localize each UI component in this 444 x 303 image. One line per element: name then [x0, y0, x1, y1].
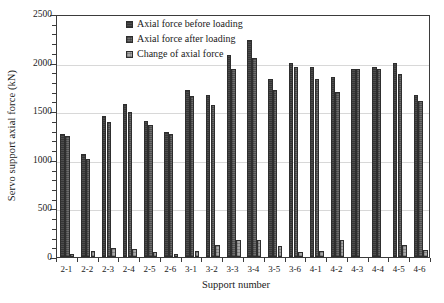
legend-swatch-icon	[126, 51, 133, 58]
bar	[107, 122, 111, 257]
x-tick	[264, 258, 265, 262]
x-tick	[118, 258, 119, 262]
bar	[128, 112, 132, 257]
bar	[169, 134, 173, 257]
plot-area	[56, 15, 430, 258]
x-axis-title: Support number	[0, 279, 444, 290]
x-tick	[201, 258, 202, 262]
legend-item-label: Axial force before loading	[137, 18, 243, 30]
y-tick-label: 1000	[12, 156, 52, 166]
bar	[195, 251, 199, 257]
bar	[174, 254, 178, 257]
x-tick	[160, 258, 161, 262]
bar	[132, 249, 136, 257]
bar	[356, 69, 360, 257]
x-axis-title-text: Support number	[202, 279, 270, 290]
x-tick	[77, 258, 78, 262]
bar	[377, 69, 381, 257]
bar	[278, 246, 282, 257]
bar	[231, 69, 235, 257]
legend-item-label: Axial force after loading	[137, 33, 236, 45]
bar	[319, 251, 323, 257]
bar	[335, 92, 339, 257]
bar	[340, 240, 344, 257]
x-tick	[98, 258, 99, 262]
y-tick-label: 2500	[12, 10, 52, 20]
bar	[402, 245, 406, 257]
legend-item: Axial force before loading	[126, 18, 243, 30]
x-tick	[139, 258, 140, 262]
x-tick	[285, 258, 286, 262]
bar	[257, 240, 261, 257]
y-tick-label: 1500	[12, 107, 52, 117]
bar	[190, 96, 194, 257]
x-tick-label: 4-6	[405, 264, 435, 274]
legend-item: Change of axial force	[126, 48, 243, 60]
bar	[111, 248, 115, 257]
bar	[252, 58, 256, 257]
y-axis-title: Servo support axial force (kN)	[0, 0, 24, 270]
bar	[418, 101, 422, 257]
bar	[65, 136, 69, 257]
y-axis-title-text: Servo support axial force (kN)	[7, 69, 18, 200]
legend-item: Axial force after loading	[126, 33, 243, 45]
bar	[153, 252, 157, 257]
bar	[70, 254, 74, 257]
y-tick-label: 0	[12, 253, 52, 263]
x-tick	[409, 258, 410, 262]
legend-swatch-icon	[126, 21, 133, 28]
bar	[273, 90, 277, 257]
x-tick	[347, 258, 348, 262]
gridline	[57, 65, 429, 66]
bar	[91, 251, 95, 257]
x-tick	[326, 258, 327, 262]
x-tick	[222, 258, 223, 262]
x-tick	[243, 258, 244, 262]
bar	[398, 74, 402, 257]
legend-swatch-icon	[126, 36, 133, 43]
x-tick	[305, 258, 306, 262]
bar	[294, 67, 298, 258]
y-tick-label: 2000	[12, 59, 52, 69]
bar	[315, 79, 319, 257]
bar	[86, 159, 90, 257]
bar	[236, 240, 240, 257]
x-tick	[368, 258, 369, 262]
x-tick	[56, 258, 57, 262]
x-tick	[388, 258, 389, 262]
bar	[298, 252, 302, 257]
x-tick	[181, 258, 182, 262]
y-tick-label: 500	[12, 204, 52, 214]
legend: Axial force before loadingAxial force af…	[126, 18, 243, 60]
bar	[148, 125, 152, 257]
x-tick	[430, 258, 431, 262]
bar	[215, 245, 219, 257]
bar	[423, 250, 427, 257]
bar-chart: Servo support axial force (kN) 050010001…	[0, 0, 444, 303]
legend-item-label: Change of axial force	[137, 48, 223, 60]
bar	[211, 105, 215, 257]
